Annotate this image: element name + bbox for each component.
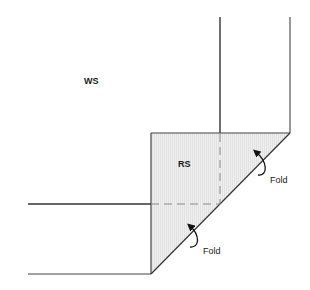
fold-label-upper: Fold [270,176,288,185]
fold-diagram [0,0,310,290]
ws-label: WS [84,77,99,86]
fold-label-lower: Fold [203,247,221,256]
rs-label: RS [178,160,191,169]
